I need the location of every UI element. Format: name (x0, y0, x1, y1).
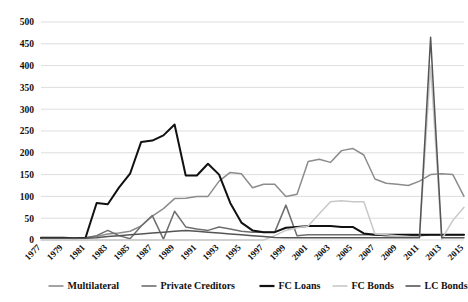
x-axis-tick-label: 1993 (201, 242, 221, 262)
x-axis-tick-label: 1989 (156, 242, 176, 262)
y-axis-tick-label: 400 (20, 61, 35, 71)
series-line-multilateral (41, 148, 464, 238)
x-axis-tick-label: 2013 (423, 242, 443, 262)
x-axis-tick-label: 2011 (401, 242, 421, 262)
y-axis-tick-label: 500 (20, 17, 35, 27)
x-axis-tick-label: 1983 (89, 242, 109, 262)
x-axis-tick-label: 2007 (357, 242, 377, 262)
x-axis-tick-label: 2003 (312, 242, 332, 262)
chart-legend: MultilateralPrivate CreditorsFC LoansFC … (49, 280, 468, 291)
x-axis-tick-label: 1987 (134, 242, 154, 262)
y-axis-tick-label: 150 (20, 170, 35, 180)
y-axis-tick-label: 350 (20, 83, 35, 93)
x-axis-tick-label: 1977 (23, 242, 43, 262)
x-axis-tick-label: 2005 (334, 242, 354, 262)
y-axis-tick-labels: 050100150200250300350400450500 (20, 17, 35, 245)
x-axis-tick-labels: 1977197919811983198519871989199119931995… (23, 242, 466, 262)
gridlines (41, 22, 464, 240)
legend-label-multilateral: Multilateral (68, 280, 120, 291)
chart-canvas: 050100150200250300350400450500 197719791… (0, 0, 468, 302)
x-axis-tick-label: 1999 (268, 242, 288, 262)
legend-label-private-creditors: Private Creditors (161, 280, 236, 291)
x-axis-tick-label: 1997 (245, 242, 265, 262)
y-axis-tick-label: 300 (20, 105, 35, 115)
y-axis-tick-label: 250 (20, 126, 35, 136)
x-axis-tick-label: 1981 (67, 242, 87, 262)
y-axis-tick-label: 200 (20, 148, 35, 158)
legend-label-fc-loans: FC Loans (279, 280, 321, 291)
x-axis-tick-label: 2009 (379, 242, 399, 262)
y-axis-tick-label: 450 (20, 39, 35, 49)
series-line-fc-loans (41, 124, 464, 238)
x-axis-tick-label: 2015 (446, 242, 466, 262)
data-series-group (41, 37, 464, 240)
x-axis-tick-label: 1991 (178, 242, 198, 262)
legend-label-lc-bonds: LC Bonds (425, 280, 468, 291)
line-chart: 050100150200250300350400450500 197719791… (0, 0, 468, 302)
x-axis-tick-label: 2001 (290, 242, 310, 262)
legend-label-fc-bonds: FC Bonds (352, 280, 395, 291)
x-axis-tick-label: 1985 (112, 242, 132, 262)
y-axis-tick-label: 50 (25, 214, 35, 224)
x-axis-tick-label: 1995 (223, 242, 243, 262)
y-axis-tick-label: 100 (20, 192, 35, 202)
x-axis-tick-label: 1979 (45, 242, 65, 262)
series-line-lc-bonds (41, 37, 464, 238)
